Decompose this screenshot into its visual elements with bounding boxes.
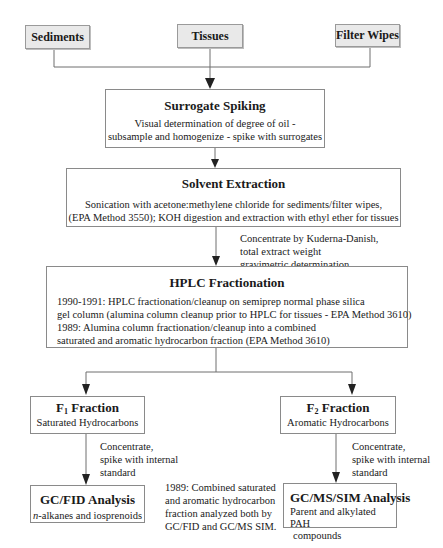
arrow-down-icon	[82, 474, 90, 485]
f2-concentrate-note: Concentrate, spike with internal standar…	[352, 440, 430, 479]
note-line: fraction analyzed both by	[165, 507, 276, 520]
note-line: standard	[100, 466, 178, 479]
note-line: Concentrate by Kuderna-Danish,	[240, 232, 379, 245]
note-line: Concentrate,	[100, 440, 178, 453]
gcms-line: Parent and alkylated PAH	[290, 506, 396, 530]
source-label: Tissues	[191, 29, 228, 44]
hplc-line: gel column (alumina column cleanup prior…	[57, 308, 407, 321]
surrogate-line: Visual determination of degree of oil -	[106, 117, 324, 130]
note-line: spike with internal	[100, 453, 178, 466]
arrow-down-icon	[211, 159, 219, 168]
source-label: Sediments	[31, 30, 84, 45]
hplc-title: HPLC Fractionation	[57, 275, 397, 291]
source-filter-wipes: Filter Wipes	[335, 24, 400, 47]
note-line: Concentrate,	[352, 440, 430, 453]
f1-title: F1 Fraction	[31, 400, 144, 416]
gcfid-subtitle: n-alkanes and iosprenoids	[31, 509, 144, 522]
gcfid-title: GC/FID Analysis	[31, 492, 144, 508]
hplc-line: 1989: Alumina column fractionation/clean…	[57, 321, 407, 334]
solvent-extraction-box: Solvent Extraction Sonication with aceto…	[66, 168, 401, 227]
f2-title-prefix: F	[307, 400, 315, 415]
gcfid-analysis-box: GC/FID Analysis n-alkanes and iosprenoid…	[30, 485, 145, 523]
note-line: GC/FID and GC/MS SIM.	[165, 520, 276, 533]
hplc-line: 1990-1991: HPLC fractionation/cleanup on…	[57, 295, 407, 308]
combined-1989-note: 1989: Combined saturated and aromatic hy…	[165, 481, 276, 533]
arrow-down-icon	[205, 78, 215, 89]
hplc-line: saturated and aromatic hydrocarbon fract…	[57, 334, 407, 347]
f1-fraction-box: F1 Fraction Saturated Hydrocarbons	[30, 396, 145, 434]
note-line: and aromatic hydrocarbon	[165, 494, 276, 507]
f2-title-suffix: Fraction	[319, 400, 370, 415]
f2-title: F2 Fraction	[281, 400, 395, 416]
gcms-sim-analysis-box: GC/MS/SIM Analysis Parent and alkylated …	[283, 483, 397, 528]
extraction-line: Sonication with acetone:methylene chlori…	[67, 198, 400, 211]
note-line: total extract weight	[240, 245, 379, 258]
arrow-down-icon	[82, 384, 90, 395]
surrogate-line: subsample and homogenize - spike with su…	[106, 130, 324, 143]
note-line: 1989: Combined saturated	[165, 481, 276, 494]
arrow-down-icon	[212, 256, 220, 266]
f1-concentrate-note: Concentrate, spike with internal standar…	[100, 440, 178, 479]
arrow-down-icon	[348, 384, 356, 395]
hplc-fractionation-box: HPLC Fractionation 1990-1991: HPLC fract…	[46, 266, 408, 348]
f2-subtitle: Aromatic Hydrocarbons	[281, 416, 395, 429]
extraction-title: Solvent Extraction	[67, 176, 400, 192]
note-line: spike with internal	[352, 453, 430, 466]
f1-title-suffix: Fraction	[68, 400, 119, 415]
note-line: standard	[352, 466, 430, 479]
gcms-line: compounds	[290, 530, 396, 542]
gcms-title: GC/MS/SIM Analysis	[290, 490, 396, 506]
arrow-down-icon	[332, 472, 340, 483]
source-tissues: Tissues	[177, 24, 243, 48]
gcfid-sub-rest: -alkanes and iosprenoids	[38, 510, 142, 521]
surrogate-spiking-box: Surrogate Spiking Visual determination o…	[105, 89, 325, 148]
f2-fraction-box: F2 Fraction Aromatic Hydrocarbons	[280, 396, 396, 434]
source-label: Filter Wipes	[336, 28, 399, 43]
source-sediments: Sediments	[25, 25, 90, 49]
extraction-line: (EPA Method 3550); KOH digestion and ext…	[67, 211, 400, 224]
surrogate-title: Surrogate Spiking	[106, 98, 324, 114]
f1-title-prefix: F	[56, 400, 64, 415]
f1-subtitle: Saturated Hydrocarbons	[31, 416, 144, 429]
